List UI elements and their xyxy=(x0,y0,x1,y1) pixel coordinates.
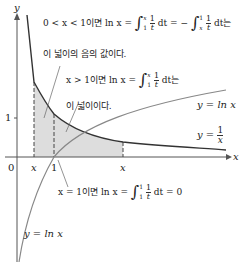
annotation-lt1: 0 < x < 1이면 ln x = ∫x1 1t dt = − ∫1x 1t … xyxy=(43,13,231,33)
annotation-gt1: x > 1이면 ln x = ∫x1 1t dt는 xyxy=(66,70,179,90)
annotation-eq1: x = 1이면 ln x = ∫11 1t dt = 0 xyxy=(58,182,182,202)
leader-lt1 xyxy=(44,66,60,118)
x-left-label: x xyxy=(31,162,37,174)
y-axis-label: y xyxy=(14,2,20,14)
y-axis-arrow-icon xyxy=(14,13,20,20)
shaded-area-right xyxy=(54,114,123,157)
ln-curve-label-bottom: y = ln x xyxy=(24,228,63,240)
x-right-label: x xyxy=(120,162,126,174)
x-axis-label: x xyxy=(233,151,239,163)
reciprocal-curve-label: y = 1 x xyxy=(197,126,223,145)
annotation-lt1-line2: 이 넓이의 음의 값이다. xyxy=(43,48,126,60)
annotation-gt1-line2: 이 넓이이다. xyxy=(66,100,112,112)
x-axis-arrow-icon xyxy=(226,154,232,160)
origin-label: 0 xyxy=(8,162,14,174)
ln-curve-label-right: y = ln x xyxy=(197,99,236,111)
y-tick-one-label: 1 xyxy=(5,112,11,124)
shaded-area-left xyxy=(34,82,54,157)
x-tick-one-label: 1 xyxy=(51,162,57,174)
